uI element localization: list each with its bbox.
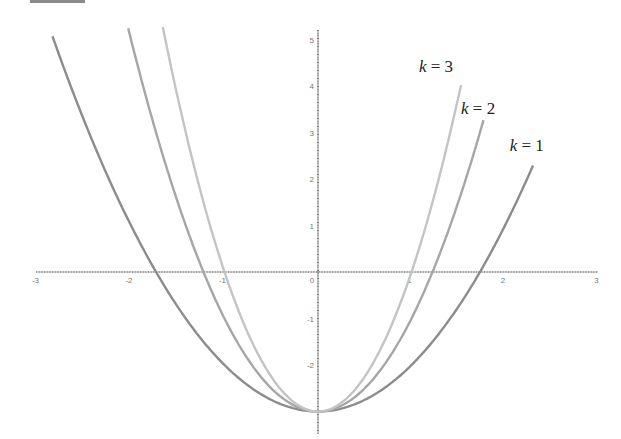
x-tick-label: 0: [310, 276, 315, 285]
axes: [36, 30, 598, 434]
y-tick-label: 2: [310, 175, 315, 184]
curve-k2: [128, 28, 483, 411]
y-tick-label: -2: [307, 361, 315, 370]
x-tick-label: 2: [501, 276, 506, 285]
label-k3: k = 3: [419, 57, 453, 76]
parabola-chart: -3-2-1012354321-1-2 k = 1k = 2k = 3: [0, 0, 621, 439]
x-tick-label: -2: [125, 276, 133, 285]
curve-labels: k = 1k = 2k = 3: [419, 57, 544, 155]
x-tick-label: 3: [594, 276, 599, 285]
curves: [53, 27, 534, 411]
label-k2: k = 2: [461, 99, 495, 118]
y-tick-label: 4: [310, 82, 315, 91]
y-tick-label: 3: [310, 129, 315, 138]
x-tick-label: -3: [32, 276, 40, 285]
label-k1: k = 1: [510, 136, 544, 155]
y-tick-label: 5: [310, 36, 315, 45]
tick-labels: -3-2-1012354321-1-2: [32, 36, 599, 371]
y-tick-label: 1: [310, 222, 315, 231]
y-tick-label: -1: [307, 315, 315, 324]
curve-k1: [53, 36, 534, 411]
